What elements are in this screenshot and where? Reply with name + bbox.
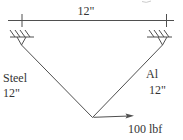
right-member-length-label: 12" xyxy=(149,83,166,97)
wall-hatching xyxy=(10,30,30,37)
truss-diagram-canvas: 12" Steel 12" Al 12" 100 lbf xyxy=(0,0,183,140)
edge-artifact xyxy=(142,1,151,2)
diagram-labels: 12" Steel 12" Al 12" 100 lbf xyxy=(3,4,166,136)
truss-diagram: 12" Steel 12" Al 12" 100 lbf xyxy=(0,0,183,140)
hatch-line xyxy=(25,30,30,37)
pin-support-left xyxy=(10,30,34,45)
right-member-material-label: Al xyxy=(146,67,159,81)
hatch-line xyxy=(159,30,164,37)
hatch-line xyxy=(154,30,159,37)
hatch-line xyxy=(149,30,154,37)
pin-support-right xyxy=(147,30,172,45)
hatch-line xyxy=(10,30,15,37)
top-dimension-label: 12" xyxy=(78,4,95,18)
wall-hatching xyxy=(149,30,169,37)
left-member-length-label: 12" xyxy=(3,86,20,100)
hatch-line xyxy=(15,30,20,37)
pin-triangle xyxy=(17,37,26,45)
left-member-material-label: Steel xyxy=(3,71,28,85)
diagram-linework xyxy=(8,14,174,118)
force-arrow-shaft xyxy=(94,116,128,117)
hatch-line xyxy=(164,30,169,37)
member-aluminum xyxy=(93,45,163,118)
pin-triangle xyxy=(158,37,167,45)
hatch-line xyxy=(20,30,25,37)
force-label: 100 lbf xyxy=(128,122,162,136)
member-steel xyxy=(22,45,93,118)
